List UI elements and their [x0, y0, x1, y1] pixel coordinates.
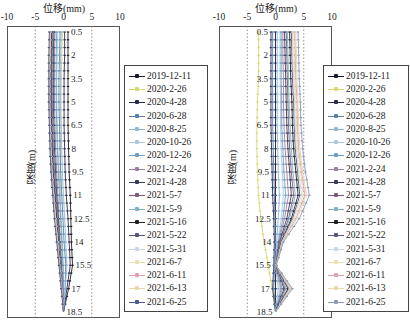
- data-marker: [63, 78, 65, 79]
- legend-label: 2021-5-7: [346, 190, 381, 200]
- data-marker: [68, 171, 70, 172]
- data-marker: [66, 210, 68, 211]
- data-marker: [63, 109, 65, 110]
- data-marker: [286, 296, 288, 297]
- data-marker: [283, 171, 285, 172]
- data-marker: [288, 94, 290, 95]
- data-marker: [67, 47, 69, 48]
- data-marker: [307, 187, 309, 188]
- data-marker: [62, 195, 64, 196]
- legend-swatch-icon: [328, 246, 344, 252]
- data-marker: [257, 94, 259, 95]
- legend-swatch-icon: [129, 179, 145, 185]
- legend-label: 2021-6-11: [147, 270, 186, 280]
- data-marker: [297, 109, 299, 110]
- data-marker: [295, 39, 297, 40]
- depth-label: 5: [71, 97, 76, 107]
- legend-item: 2021-5-7: [328, 189, 404, 202]
- data-marker: [291, 164, 293, 165]
- legend: 2019-12-112020-2-262020-4-282020-6-28202…: [124, 65, 208, 312]
- depth-label: 9.5: [258, 167, 270, 177]
- data-marker: [285, 210, 287, 211]
- data-marker: [63, 140, 65, 141]
- data-marker: [257, 70, 259, 71]
- data-marker: [59, 70, 61, 71]
- data-marker: [274, 156, 276, 157]
- data-marker: [256, 101, 258, 102]
- data-marker: [288, 101, 290, 102]
- legend-label: 2020-2-26: [147, 84, 187, 94]
- data-marker: [271, 78, 273, 79]
- data-marker: [287, 63, 289, 64]
- data-marker: [70, 273, 72, 274]
- depth-label: 18.5: [257, 307, 273, 317]
- depth-label: 0.5: [257, 27, 269, 37]
- data-marker: [292, 171, 294, 172]
- data-marker: [273, 171, 275, 172]
- legend-item: 2021-5-9: [129, 202, 203, 215]
- data-marker: [282, 195, 284, 196]
- data-marker: [67, 86, 69, 87]
- data-marker: [280, 86, 282, 87]
- data-marker: [67, 55, 69, 56]
- data-marker: [63, 133, 65, 134]
- data-marker: [256, 164, 258, 165]
- data-marker: [280, 249, 282, 250]
- data-marker: [60, 125, 62, 126]
- data-marker: [290, 210, 292, 211]
- legend-label: 2020-4-28: [147, 97, 187, 107]
- data-marker: [50, 179, 52, 180]
- data-marker: [290, 195, 292, 196]
- data-marker: [65, 273, 67, 274]
- data-marker: [68, 179, 70, 180]
- data-marker: [278, 179, 280, 180]
- data-marker: [49, 156, 51, 157]
- data-marker: [261, 226, 263, 227]
- data-marker: [272, 133, 274, 134]
- legend-item: 2021-5-9: [328, 202, 404, 215]
- legend-item: 2021-6-13: [328, 282, 404, 295]
- legend-item: 2020-8-25: [129, 122, 203, 135]
- data-marker: [287, 195, 289, 196]
- data-marker: [65, 195, 67, 196]
- data-marker: [273, 296, 275, 297]
- legend-item: 2021-2-24: [129, 162, 203, 175]
- data-marker: [51, 187, 53, 188]
- legend-label: 2020-10-26: [147, 137, 191, 147]
- data-marker: [298, 218, 300, 219]
- legend-label: 2021-5-16: [147, 217, 187, 227]
- data-marker: [275, 265, 277, 266]
- data-marker: [67, 101, 69, 102]
- data-marker: [70, 226, 72, 227]
- data-marker: [281, 117, 283, 118]
- data-marker: [284, 203, 286, 204]
- depth-label: 12.5: [255, 214, 271, 224]
- data-marker: [273, 273, 275, 274]
- legend-item: 2021-5-7: [129, 189, 203, 202]
- data-marker: [297, 47, 299, 48]
- data-marker: [304, 171, 306, 172]
- data-marker: [63, 94, 65, 95]
- data-marker: [59, 94, 61, 95]
- data-marker: [69, 187, 71, 188]
- data-marker: [301, 171, 303, 172]
- data-marker: [67, 125, 69, 126]
- data-marker: [67, 78, 69, 79]
- legend-label: 2021-5-22: [147, 230, 187, 240]
- data-marker: [276, 140, 278, 141]
- data-marker: [67, 109, 69, 110]
- data-marker: [70, 241, 72, 242]
- data-marker: [276, 101, 278, 102]
- data-marker: [60, 31, 62, 32]
- legend-label: 2020-10-26: [346, 137, 390, 147]
- data-marker: [68, 249, 70, 250]
- data-marker: [52, 203, 54, 204]
- data-marker: [282, 241, 284, 242]
- legend-label: 2020-12-26: [346, 150, 390, 160]
- data-marker: [48, 86, 50, 87]
- data-marker: [273, 195, 275, 196]
- legend-label: 2021-5-16: [346, 217, 386, 227]
- data-marker: [293, 226, 295, 227]
- data-marker: [65, 241, 67, 242]
- data-marker: [71, 265, 73, 266]
